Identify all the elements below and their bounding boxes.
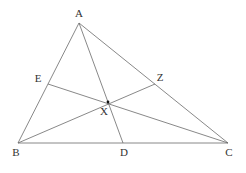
label-e: E (35, 72, 42, 84)
cevian-ce (48, 84, 228, 143)
label-x: X (100, 105, 108, 117)
point-x-marker (107, 101, 110, 104)
diagram-canvas: ABCDEZX (0, 0, 246, 173)
label-c: C (225, 146, 232, 158)
segments (18, 23, 228, 143)
label-a: A (75, 7, 83, 19)
label-b: B (12, 146, 19, 158)
labels: ABCDEZX (12, 7, 232, 158)
side-ab (18, 23, 79, 143)
label-d: D (120, 146, 128, 158)
cevian-bz (18, 84, 155, 143)
points (107, 101, 110, 104)
label-z: Z (157, 71, 164, 83)
triangle-diagram: ABCDEZX (0, 0, 246, 173)
